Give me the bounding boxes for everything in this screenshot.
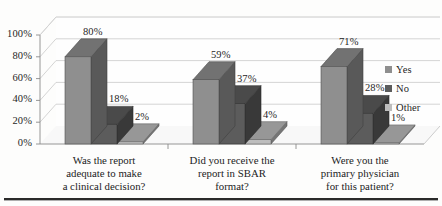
- y-axis-tick-label: 100%: [0, 28, 32, 39]
- legend-item: Other: [385, 98, 420, 117]
- data-label: 28%: [365, 82, 385, 93]
- data-label: 59%: [211, 49, 231, 60]
- chart-3d-scene: 0%20%40%60%80%100% 2%18%80%4%37%59%1%28%…: [0, 0, 442, 206]
- legend-label: No: [396, 83, 409, 94]
- data-label: 4%: [263, 109, 277, 120]
- data-label: 37%: [237, 73, 257, 84]
- data-label: 2%: [135, 111, 149, 122]
- data-label: 18%: [109, 93, 129, 104]
- data-label: 71%: [339, 36, 359, 47]
- legend-swatch-icon: [385, 66, 392, 73]
- legend-label: Yes: [396, 64, 412, 75]
- legend-item: No: [385, 79, 420, 98]
- legend-swatch-icon: [385, 104, 392, 111]
- y-axis-tick-label: 60%: [0, 72, 32, 83]
- y-axis-tick-label: 40%: [0, 93, 32, 104]
- chart-legend: YesNoOther: [385, 60, 420, 117]
- y-axis-tick-label: 20%: [0, 115, 32, 126]
- y-axis-tick-label: 0%: [0, 137, 32, 148]
- x-axis-category-label: Was the report adequate to make a clinic…: [34, 154, 174, 194]
- legend-item: Yes: [385, 60, 420, 79]
- legend-label: Other: [396, 102, 420, 113]
- x-axis-category-label: Did you receive the report in SBAR forma…: [162, 154, 302, 194]
- x-axis-category-label: Were you the primary physician for this …: [290, 154, 430, 194]
- data-label: 80%: [83, 26, 103, 37]
- legend-swatch-icon: [385, 85, 392, 92]
- y-axis-tick-label: 80%: [0, 50, 32, 61]
- footer-rule-secondary: [4, 200, 438, 201]
- chart-figure: 0%20%40%60%80%100% 2%18%80%4%37%59%1%28%…: [0, 0, 442, 206]
